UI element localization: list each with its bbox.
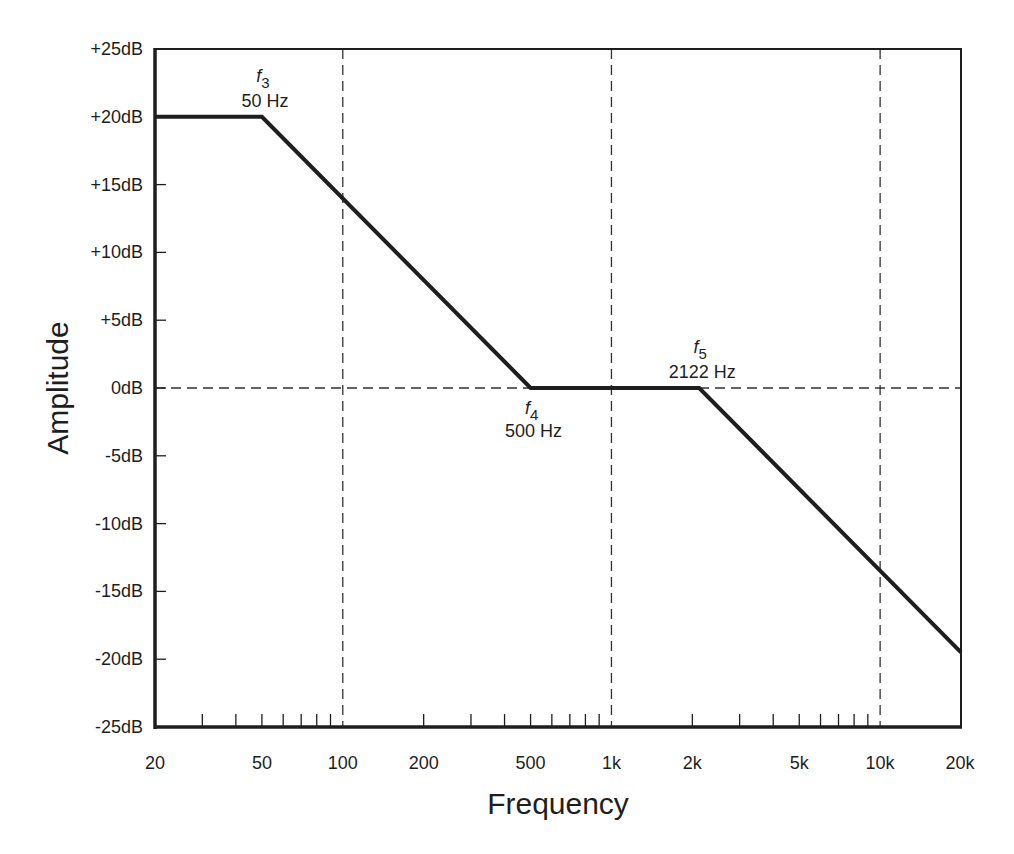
- y-tick-label: +10dB: [90, 242, 143, 262]
- x-tick-label: 10k: [866, 753, 896, 773]
- frequency-value: 500 Hz: [505, 421, 562, 441]
- x-tick-label: 200: [409, 753, 439, 773]
- y-tick-label: -15dB: [95, 581, 143, 601]
- x-tick-label: 100: [328, 753, 358, 773]
- x-axis-title: Frequency: [487, 787, 629, 820]
- x-tick-label: 5k: [790, 753, 810, 773]
- response-curve: [155, 117, 961, 653]
- x-tick-label: 20k: [945, 753, 975, 773]
- y-tick-label: +25dB: [90, 39, 143, 59]
- y-tick-labels: +25dB+20dB+15dB+10dB+5dB0dB-5dB-10dB-15d…: [90, 39, 143, 737]
- corner-frequency-annotations: f350 Hzf4500 Hzf52122 Hz: [241, 66, 735, 441]
- bode-amplitude-chart: +25dB+20dB+15dB+10dB+5dB0dB-5dB-10dB-15d…: [0, 0, 1014, 854]
- x-minor-ticks: [202, 714, 868, 727]
- y-tick-label: -10dB: [95, 514, 143, 534]
- x-tick-label: 50: [252, 753, 272, 773]
- corner-frequency-label: f52122 Hz: [669, 337, 736, 382]
- y-tick-label: +5dB: [100, 310, 143, 330]
- frequency-value: 2122 Hz: [669, 362, 736, 382]
- frequency-symbol: f5: [694, 337, 707, 362]
- corner-frequency-label: f350 Hz: [241, 66, 288, 111]
- y-tick-label: -5dB: [105, 446, 143, 466]
- x-tick-label: 2k: [683, 753, 703, 773]
- x-tick-label: 20: [145, 753, 165, 773]
- y-tick-label: +15dB: [90, 175, 143, 195]
- y-tick-label: +20dB: [90, 107, 143, 127]
- response-line: [155, 117, 961, 653]
- x-tick-labels: 20501002005001k2k5k10k20k: [145, 753, 976, 773]
- x-tick-label: 1k: [602, 753, 622, 773]
- y-tick-label: -25dB: [95, 717, 143, 737]
- frequency-symbol: f4: [525, 398, 538, 423]
- frequency-symbol: f3: [256, 66, 269, 91]
- y-tick-label: 0dB: [111, 378, 143, 398]
- y-axis-title: Amplitude: [41, 321, 74, 454]
- x-tick-label: 500: [516, 753, 546, 773]
- corner-frequency-label: f4500 Hz: [505, 398, 562, 441]
- frequency-value: 50 Hz: [241, 91, 288, 111]
- y-tick-label: -20dB: [95, 649, 143, 669]
